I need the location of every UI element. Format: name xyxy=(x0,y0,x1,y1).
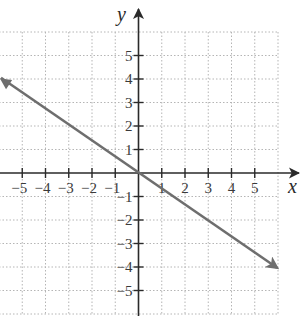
x-tick-label: 5 xyxy=(251,180,259,196)
x-tick-label: 4 xyxy=(228,180,236,196)
y-tick-label: −1 xyxy=(117,189,133,205)
y-tick-label: 1 xyxy=(125,142,133,158)
y-tick-label: 5 xyxy=(125,48,133,64)
y-tick-label: −5 xyxy=(117,283,133,299)
y-tick-label: −3 xyxy=(117,236,133,252)
coordinate-plane: −5−4−3−2−11234554321−1−2−3−4−5 xy xyxy=(0,0,304,325)
x-tick-label: −5 xyxy=(11,180,27,196)
x-tick-label: 2 xyxy=(181,180,189,196)
x-tick-label: −2 xyxy=(81,180,97,196)
y-tick-label: 4 xyxy=(125,71,133,87)
x-tick-label: −3 xyxy=(58,180,74,196)
y-tick-label: 2 xyxy=(125,118,133,134)
x-tick-label: 3 xyxy=(205,180,213,196)
x-axis-label: x xyxy=(287,175,297,197)
y-tick-label: −2 xyxy=(117,212,133,228)
y-axis-label: y xyxy=(115,3,126,26)
y-tick-label: 3 xyxy=(125,95,133,111)
x-tick-label: −4 xyxy=(35,180,51,196)
y-tick-label: −4 xyxy=(117,259,133,275)
